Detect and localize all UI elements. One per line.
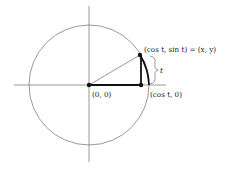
arc-label: t: [160, 66, 163, 75]
brace: [150, 56, 158, 84]
origin-point: [87, 83, 91, 87]
foot-label: (cos t, 0): [150, 90, 182, 99]
circle-point: [138, 53, 142, 57]
radius-line: [89, 55, 140, 85]
foot-point: [139, 83, 143, 87]
point-label: (cos t, sin t) = (x, y): [144, 45, 216, 54]
origin-label: (0, 0): [92, 90, 112, 99]
unit-circle-diagram: (cos t, sin t) = (x, y) t (0, 0) (cos t,…: [0, 0, 235, 172]
